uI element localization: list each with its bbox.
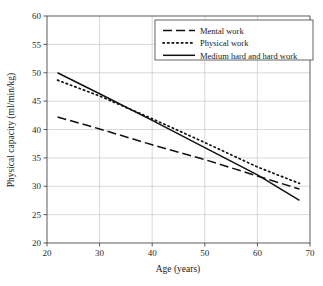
y-tick-label: 35 [32,153,42,163]
y-tick-label: 50 [32,68,42,78]
x-tick-label: 20 [43,248,53,258]
y-tick-label: 45 [32,96,42,106]
y-tick-label: 55 [32,40,42,50]
x-tick-label: 40 [148,248,158,258]
x-tick-label: 50 [200,248,210,258]
legend-label: Mental work [200,26,244,36]
y-tick-label: 20 [32,238,42,248]
chart-figure: 203040506070 202530354045505560 Age (yea… [0,0,323,286]
y-tick-label: 30 [32,181,42,191]
y-axis-tick-labels: 202530354045505560 [32,11,42,248]
legend-label: Medium hard and hard work [200,51,298,61]
x-tick-label: 70 [306,248,316,258]
y-tick-label: 25 [32,210,42,220]
y-tick-label: 60 [32,11,42,21]
legend-label: Physical work [200,38,249,48]
chart-legend[interactable]: Mental workPhysical workMedium hard and … [155,20,313,61]
x-tick-label: 30 [95,248,105,258]
x-tick-label: 60 [253,248,263,258]
y-axis-title: Physical capacity (ml/min/kg) [6,73,17,188]
x-axis-title: Age (years) [156,264,201,275]
line-chart-svg: 203040506070 202530354045505560 Age (yea… [0,0,323,286]
y-tick-label: 40 [32,125,42,135]
